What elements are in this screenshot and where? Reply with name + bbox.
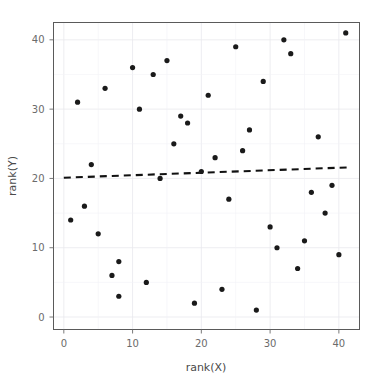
data-point	[164, 58, 169, 63]
data-point	[157, 176, 162, 181]
y-tick-label: 20	[32, 173, 45, 184]
data-point	[247, 127, 252, 132]
plot-canvas: 010203040 010203040 rank(X) rank(Y)	[0, 0, 385, 386]
data-point	[288, 51, 293, 56]
plot-panel-background	[53, 22, 360, 330]
data-point	[206, 93, 211, 98]
x-tick-label: 0	[61, 338, 67, 349]
data-point	[268, 224, 273, 229]
data-point	[233, 44, 238, 49]
x-tick-label: 40	[333, 338, 346, 349]
y-tick-label: 40	[32, 34, 45, 45]
data-point	[68, 217, 73, 222]
data-point	[254, 307, 259, 312]
data-point	[295, 266, 300, 271]
data-point	[116, 294, 121, 299]
data-point	[109, 273, 114, 278]
data-point	[96, 231, 101, 236]
y-tick-label: 30	[32, 104, 45, 115]
data-point	[219, 287, 224, 292]
data-point	[226, 197, 231, 202]
scatter-plot-figure: 010203040 010203040 rank(X) rank(Y)	[0, 0, 385, 386]
data-point	[185, 120, 190, 125]
data-point	[199, 169, 204, 174]
data-point	[323, 210, 328, 215]
data-point	[137, 107, 142, 112]
y-axis-ticks	[50, 40, 54, 317]
data-point	[192, 301, 197, 306]
data-point	[329, 183, 334, 188]
data-point	[336, 252, 341, 257]
data-point	[178, 113, 183, 118]
data-point	[171, 141, 176, 146]
y-tick-label: 0	[38, 312, 44, 323]
x-tick-label: 20	[195, 338, 208, 349]
data-point	[309, 190, 314, 195]
x-tick-label: 30	[264, 338, 277, 349]
x-axis-tick-labels: 010203040	[61, 338, 346, 349]
data-point	[102, 86, 107, 91]
data-point	[316, 134, 321, 139]
y-axis-tick-labels: 010203040	[32, 34, 45, 322]
x-axis-title: rank(X)	[186, 361, 227, 374]
data-point	[212, 155, 217, 160]
data-point	[274, 245, 279, 250]
data-point	[144, 280, 149, 285]
x-tick-label: 10	[126, 338, 139, 349]
data-point	[302, 238, 307, 243]
data-point	[261, 79, 266, 84]
data-point	[82, 204, 87, 209]
data-point	[116, 259, 121, 264]
data-point	[240, 148, 245, 153]
data-point	[89, 162, 94, 167]
data-point	[343, 30, 348, 35]
x-axis-ticks	[64, 330, 339, 334]
y-axis-title: rank(Y)	[6, 156, 19, 196]
y-tick-label: 10	[32, 242, 45, 253]
data-point	[281, 37, 286, 42]
data-point	[130, 65, 135, 70]
data-point	[75, 100, 80, 105]
data-point	[151, 72, 156, 77]
